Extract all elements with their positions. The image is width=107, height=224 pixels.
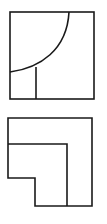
drawing-canvas [0,0,107,224]
lower-outline [8,118,92,206]
lower-view [8,118,92,206]
upper-quarter-arc [10,12,69,72]
lower-inner-l-line [8,144,67,206]
upper-outer-square [10,12,94,99]
upper-view [10,12,94,99]
